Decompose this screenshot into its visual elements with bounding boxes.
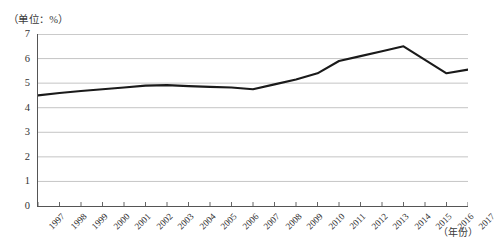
x-axis-tick-label: 2012 (370, 212, 390, 232)
x-axis-tick-label: 2002 (155, 212, 175, 232)
x-axis-caption: （年份） (438, 224, 478, 239)
x-axis-tick-label: 2007 (262, 212, 282, 232)
x-axis-tick-label: 2000 (112, 212, 132, 232)
x-axis-tick-label: 2005 (219, 212, 239, 232)
x-axis-tick-label: 2014 (413, 212, 433, 232)
x-axis-tick-label: 2008 (284, 212, 304, 232)
x-axis-tick-label: 2010 (327, 212, 347, 232)
x-axis-tick-label: 1997 (47, 212, 67, 232)
x-axis-tick-label: 2004 (198, 212, 218, 232)
x-axis-tick-label: 1999 (90, 212, 110, 232)
x-axis-tick-label: 2011 (348, 212, 367, 231)
x-axis-tick-label: 1998 (69, 212, 89, 232)
x-axis-tick-label: 2001 (133, 212, 153, 232)
x-axis-tick-label: 2003 (176, 212, 196, 232)
x-axis-tick-label: 2009 (305, 212, 325, 232)
x-axis-tick-labels: 1997199819992000200120022003200420052006… (0, 0, 494, 251)
x-axis-tick-label: 2017 (477, 212, 494, 232)
x-axis-tick-label: 2013 (391, 212, 411, 232)
x-axis-tick-label: 2006 (241, 212, 261, 232)
line-chart-figure: （单位：%） 76543210 199719981999200020012002… (0, 0, 494, 251)
